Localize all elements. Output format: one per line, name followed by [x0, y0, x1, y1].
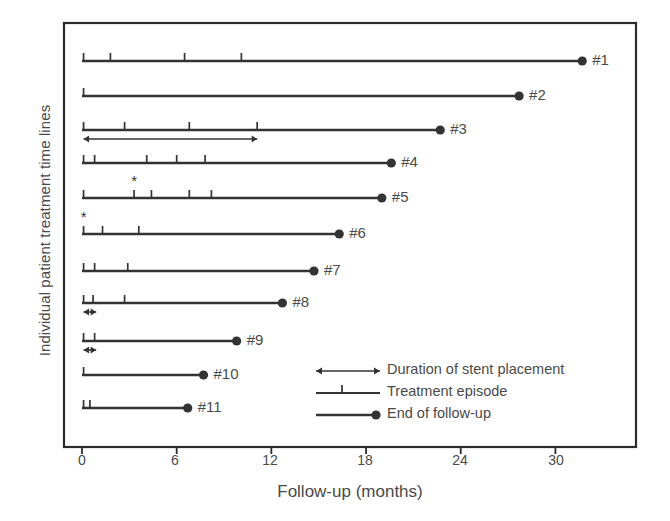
patient-timeline-chart: Individual patient treatment time lines … — [0, 0, 670, 521]
patient-label-9: #9 — [247, 331, 264, 348]
legend-arrow-left-icon — [316, 368, 322, 375]
patient-label-7: #7 — [324, 261, 341, 278]
end-of-followup-dot — [199, 370, 208, 379]
legend-label-episode: Treatment episode — [387, 383, 507, 399]
patient-label-10: #10 — [214, 365, 239, 382]
patient-label-11: #11 — [198, 398, 222, 415]
end-of-followup-dot — [232, 336, 241, 345]
patient-label-1: #1 — [592, 51, 609, 68]
asterisk-marker: * — [81, 208, 87, 225]
end-of-followup-dot — [515, 91, 524, 100]
legend-dot-icon — [371, 410, 380, 419]
stent-arrow-head-left — [84, 347, 90, 354]
patient-label-5: #5 — [392, 188, 409, 205]
end-of-followup-dot — [183, 403, 192, 412]
asterisk-marker: * — [131, 172, 137, 189]
end-of-followup-dot — [377, 193, 386, 202]
end-of-followup-dot — [335, 229, 344, 238]
stent-arrow-head-left — [84, 136, 90, 143]
legend-arrow-right-icon — [374, 368, 380, 375]
patient-label-6: #6 — [349, 224, 366, 241]
stent-arrow-head-right — [91, 309, 97, 316]
end-of-followup-dot — [309, 266, 318, 275]
end-of-followup-dot — [578, 56, 587, 65]
patient-label-3: #3 — [450, 120, 467, 137]
patient-label-4: #4 — [401, 153, 418, 170]
stent-arrow-head-left — [84, 309, 90, 316]
patient-label-8: #8 — [292, 293, 309, 310]
legend-label-stent: Duration of stent placement — [387, 361, 564, 377]
stent-arrow-head-right — [252, 136, 257, 143]
end-of-followup-dot — [278, 298, 287, 307]
legend-label-followup: End of follow-up — [387, 405, 491, 421]
patient-label-2: #2 — [529, 86, 546, 103]
end-of-followup-dot — [387, 158, 396, 167]
stent-arrow-head-right — [91, 347, 97, 354]
end-of-followup-dot — [436, 125, 445, 134]
